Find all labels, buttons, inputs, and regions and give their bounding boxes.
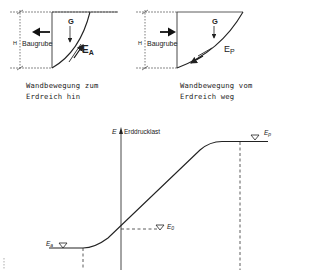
left-caption-line2: Erdreich hin bbox=[26, 92, 80, 102]
pit-label: Baugrube bbox=[22, 40, 52, 48]
earth-pressure-graph: E Erddrucklast Ea E0 Ep bbox=[4, 127, 271, 270]
right-caption-line1: Wandbewegung vom bbox=[180, 81, 252, 91]
force-label-ea: EA bbox=[82, 44, 94, 56]
pit-label: Baugrube bbox=[147, 40, 177, 48]
right-caption-line2: Erdreich weg bbox=[180, 92, 234, 102]
weight-label: G bbox=[68, 17, 74, 26]
slip-surface bbox=[177, 12, 243, 68]
passive-force-arrow-icon bbox=[191, 56, 203, 63]
axis-label: Erddrucklast bbox=[124, 128, 160, 135]
triangle-marker-icon bbox=[251, 135, 259, 140]
label-e0: E0 bbox=[167, 223, 174, 231]
axis-arrow-icon bbox=[119, 127, 123, 134]
left-caption-line1: Wandbewegung zum bbox=[26, 81, 98, 91]
weight-label: G bbox=[212, 17, 218, 26]
right-wall-diagram: H Baugrube G EP bbox=[136, 10, 243, 70]
label-ep: Ep bbox=[264, 129, 271, 137]
earth-pressure-figure: H Baugrube G EA H Baugrube G EP E Erddru… bbox=[0, 0, 320, 270]
height-label: H bbox=[138, 40, 142, 46]
arrow-right-icon bbox=[168, 28, 176, 37]
left-wall-diagram: H Baugrube G EA bbox=[10, 10, 118, 70]
arrow-left-icon bbox=[32, 28, 40, 37]
force-label-ep: EP bbox=[224, 44, 235, 55]
pressure-displacement-curve bbox=[49, 142, 268, 249]
axis-symbol: E bbox=[112, 128, 117, 135]
height-label: H bbox=[13, 40, 17, 46]
label-ea: Ea bbox=[46, 240, 53, 248]
triangle-marker-icon bbox=[156, 225, 164, 230]
triangle-marker-icon bbox=[59, 243, 67, 248]
